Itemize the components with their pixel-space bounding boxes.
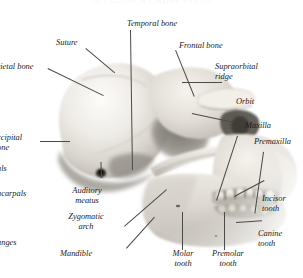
label-canine-tooth-line1: Canine — [258, 229, 282, 238]
label-canine-tooth: Canine tooth — [258, 229, 282, 248]
leader-line-occipital-bone — [40, 141, 70, 142]
label-auditory-meatus-line2: meatus — [75, 196, 99, 205]
label-occipital-bone: ccipital one — [0, 133, 22, 152]
label-temporal-bone: Temporal bone — [127, 19, 177, 29]
label-auditory-meatus: Auditory meatus — [58, 186, 116, 205]
leader-line-supraorbital-ridge — [182, 82, 222, 83]
label-molar-tooth-line1: Molar — [173, 249, 194, 258]
leader-line-premolar-tooth — [224, 212, 225, 250]
label-molar-tooth: Molar tooth — [160, 249, 206, 268]
label-frontal-bone: Frontal bone — [179, 41, 223, 51]
label-premolar-tooth-line2: tooth — [219, 259, 236, 268]
label-premolar-tooth: Premolar tooth — [204, 249, 252, 268]
label-premaxilla: Premaxilla — [254, 137, 291, 147]
leader-line-molar-tooth — [182, 212, 183, 250]
label-occipital-bone-line2: one — [0, 143, 9, 152]
label-orbit: Orbit — [236, 97, 254, 107]
label-supraorbital-ridge-line1: Supraorbital — [215, 62, 258, 71]
label-carpals: als — [0, 164, 7, 174]
label-parietal-bone: rietal bone — [0, 62, 34, 72]
anatomical-figure: SKULL OF A CHIMPANZEE — [0, 0, 303, 278]
label-incisor-tooth-line2: tooth — [262, 204, 279, 213]
label-incisor-tooth: Incisor tooth — [262, 194, 286, 213]
label-molar-tooth-line2: tooth — [174, 259, 191, 268]
label-auditory-meatus-line1: Auditory — [72, 186, 101, 195]
label-incisor-tooth-line1: Incisor — [262, 194, 286, 203]
label-maxilla: Maxilla — [245, 121, 271, 131]
label-premolar-tooth-line1: Premolar — [212, 249, 244, 258]
label-supraorbital-ridge: Supraorbital ridge — [215, 62, 297, 81]
label-canine-tooth-line2: tooth — [258, 239, 275, 248]
label-mandible: Mandible — [60, 249, 92, 259]
label-zygomatic-arch-line2: arch — [78, 222, 93, 231]
label-zygomatic-arch: Zygomatic arch — [52, 212, 120, 231]
label-metacarpals: acarpals — [0, 189, 26, 199]
label-supraorbital-ridge-line2: ridge — [215, 72, 233, 81]
label-zygomatic-arch-line1: Zygomatic — [68, 212, 103, 221]
label-suture: Suture — [56, 38, 78, 48]
label-phalanges: anges — [0, 238, 17, 248]
label-occipital-bone-line1: ccipital — [0, 133, 22, 142]
